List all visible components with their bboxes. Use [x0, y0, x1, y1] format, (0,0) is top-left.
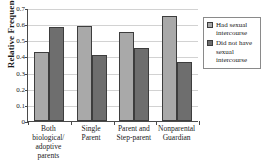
y-tick-label: 0.6 — [5, 22, 25, 29]
bar-groups — [28, 9, 198, 121]
bar — [92, 55, 107, 121]
x-tick-label: NonparentalGuardian — [155, 124, 198, 160]
x-axis-labels: Bothbiological/adoptiveparentsSinglePare… — [27, 124, 198, 160]
x-tick-mark — [199, 121, 200, 125]
x-tick-label: SingleParent — [70, 124, 113, 160]
bar-chart-figure: Relative Frequency 00.10.20.30.40.50.60.… — [0, 0, 264, 163]
bar-group — [113, 9, 156, 121]
legend-item: Had sexual intercourse — [207, 21, 257, 37]
legend-label: Had sexual intercourse — [216, 21, 257, 37]
y-tick-label: 0.1 — [5, 102, 25, 109]
chart-legend: Had sexual intercourseDid not have sexua… — [203, 17, 261, 69]
x-tick-label: Bothbiological/adoptiveparents — [27, 124, 70, 160]
bar — [77, 26, 92, 121]
bar — [134, 48, 149, 121]
bar — [162, 16, 177, 121]
x-tick-label: Parent andStep-parent — [113, 124, 156, 160]
legend-swatch-icon — [207, 22, 213, 28]
y-tick-label: 0.2 — [5, 86, 25, 93]
y-tick-label: 0.3 — [5, 70, 25, 77]
bar-group — [71, 9, 114, 121]
plot-area: 00.10.20.30.40.50.60.7 — [27, 9, 198, 122]
bar — [119, 32, 134, 121]
y-tick-label: 0.5 — [5, 38, 25, 45]
legend-item: Did not have sexual intercourse — [207, 39, 257, 64]
bar — [34, 52, 49, 121]
legend-label: Did not have sexual intercourse — [216, 39, 257, 64]
bar-group — [28, 9, 71, 121]
legend-swatch-icon — [207, 40, 213, 46]
bar — [49, 27, 64, 121]
y-tick-label: 0 — [5, 119, 25, 126]
bar — [177, 62, 192, 121]
y-tick-label: 0.7 — [5, 6, 25, 13]
bar-group — [156, 9, 199, 121]
y-tick-label: 0.4 — [5, 54, 25, 61]
